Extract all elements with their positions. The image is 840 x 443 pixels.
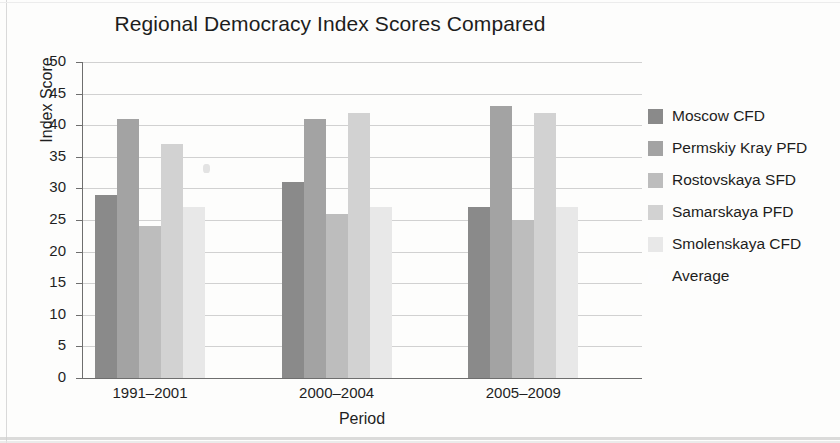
bar bbox=[348, 113, 370, 378]
bar bbox=[512, 220, 534, 378]
gridline bbox=[82, 62, 642, 63]
legend-label: Rostovskaya SFD bbox=[672, 171, 796, 189]
page-edge-top bbox=[0, 2, 840, 3]
bar bbox=[183, 207, 205, 378]
bar bbox=[139, 226, 161, 378]
legend-swatch bbox=[648, 269, 663, 284]
bar bbox=[95, 195, 117, 378]
scan-artifact-speck bbox=[203, 164, 210, 173]
y-axis-tick-label: 25 bbox=[26, 210, 66, 227]
bar bbox=[490, 106, 512, 378]
bar bbox=[468, 207, 490, 378]
legend-swatch bbox=[648, 237, 663, 252]
legend-label: Average bbox=[672, 267, 729, 285]
legend-item: Average bbox=[648, 260, 838, 292]
y-axis-tick-label: 30 bbox=[26, 178, 66, 195]
bar bbox=[326, 214, 348, 378]
bar bbox=[282, 182, 304, 378]
x-axis-category-label: 2000–2004 bbox=[277, 384, 397, 401]
legend-item: Rostovskaya SFD bbox=[648, 164, 838, 196]
page-edge-left bbox=[6, 0, 7, 443]
legend-swatch bbox=[648, 141, 663, 156]
legend-label: Moscow CFD bbox=[672, 107, 765, 125]
legend-swatch bbox=[648, 173, 663, 188]
y-axis-line bbox=[82, 62, 83, 379]
y-axis-tick-label: 10 bbox=[26, 305, 66, 322]
legend-item: Permskiy Kray PFD bbox=[648, 132, 838, 164]
chart-page: Regional Democracy Index Scores Compared… bbox=[0, 0, 840, 443]
bar bbox=[534, 113, 556, 378]
legend-item: Moscow CFD bbox=[648, 100, 838, 132]
y-axis-tick-label: 20 bbox=[26, 242, 66, 259]
chart-title: Regional Democracy Index Scores Compared bbox=[0, 12, 660, 36]
legend-item: Samarskaya PFD bbox=[648, 196, 838, 228]
legend-swatch bbox=[648, 205, 663, 220]
bar bbox=[556, 207, 578, 378]
legend-label: Samarskaya PFD bbox=[672, 203, 793, 221]
legend-swatch bbox=[648, 109, 663, 124]
page-edge-bottom bbox=[0, 437, 840, 440]
legend-item: Smolenskaya CFD bbox=[648, 228, 838, 260]
x-axis-line bbox=[82, 378, 642, 379]
y-axis-tick-label: 15 bbox=[26, 273, 66, 290]
bar bbox=[304, 119, 326, 378]
chart-legend: Moscow CFDPermskiy Kray PFDRostovskaya S… bbox=[648, 100, 838, 292]
x-axis-title: Period bbox=[82, 410, 642, 428]
x-axis-category-label: 2005–2009 bbox=[463, 384, 583, 401]
y-axis-tick-label: 0 bbox=[26, 368, 66, 385]
x-axis-category-label: 1991–2001 bbox=[90, 384, 210, 401]
plot-area: 05101520253035404550 1991–20012000–20042… bbox=[82, 62, 642, 378]
legend-label: Permskiy Kray PFD bbox=[672, 139, 807, 157]
bar bbox=[117, 119, 139, 378]
bar bbox=[370, 207, 392, 378]
bar bbox=[161, 144, 183, 378]
gridline bbox=[82, 94, 642, 95]
legend-label: Smolenskaya CFD bbox=[672, 235, 801, 253]
y-axis-tick-label: 5 bbox=[26, 336, 66, 353]
y-axis-title: Index Score bbox=[38, 20, 56, 180]
